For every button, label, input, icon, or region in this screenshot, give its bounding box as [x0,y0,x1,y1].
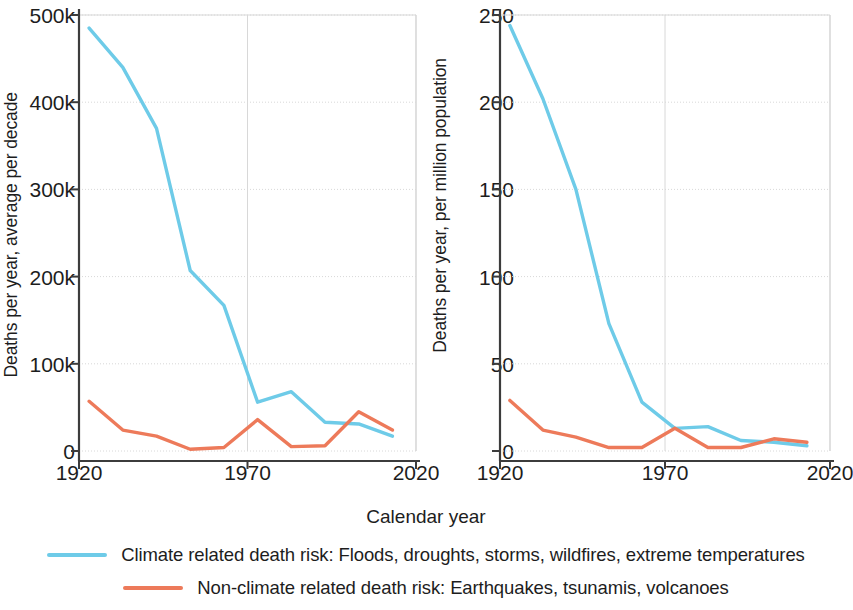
plot-area-left [0,0,426,500]
legend-label-non-climate: Non-climate related death risk: Earthqua… [197,577,728,599]
series-line-climate [89,28,392,436]
plot-area-right [426,0,852,500]
legend-swatch-climate-icon [47,553,107,557]
x-tick-label: 2020 [807,462,853,483]
x-axis-title: Calendar year [0,506,852,528]
legend-swatch-non-climate-icon [123,586,183,590]
legend-item-climate: Climate related death risk: Floods, drou… [0,538,852,571]
x-tick-label: 1920 [477,462,524,483]
series-line-non-climate [510,400,807,447]
chart-legend: Climate related death risk: Floods, drou… [0,538,852,604]
x-tick-label: 1920 [56,462,103,483]
series-line-non-climate [89,401,392,449]
chart-panel-right: Deaths per year, per million population … [426,0,852,500]
panels-container: Deaths per year, average per decade 0100… [0,0,852,500]
legend-item-non-climate: Non-climate related death risk: Earthqua… [0,571,852,604]
x-tick-label: 1970 [642,462,689,483]
chart-panel-left: Deaths per year, average per decade 0100… [0,0,426,500]
legend-label-climate: Climate related death risk: Floods, drou… [121,544,804,566]
x-tick-label: 1970 [224,462,271,483]
series-line-climate [510,25,807,445]
